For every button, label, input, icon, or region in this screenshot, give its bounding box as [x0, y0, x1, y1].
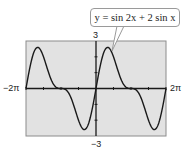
x-min-label: −2π: [3, 83, 19, 93]
y-min-label: −3: [91, 139, 101, 149]
y-max-label: 3: [93, 30, 98, 40]
x-max-label: 2π: [170, 83, 181, 93]
equation-callout: y = sin 2x + 2 sin x: [90, 8, 180, 27]
